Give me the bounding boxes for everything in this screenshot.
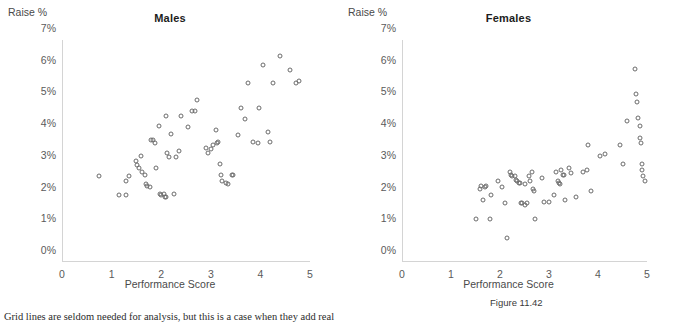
data-point [488,217,493,222]
data-point [524,201,529,206]
x-axis-title-males: Performance Score [0,278,340,290]
data-point [213,128,218,133]
x-axis-line-females [402,261,647,262]
data-point [569,171,574,176]
data-point [246,80,251,85]
data-point [636,115,641,120]
data-point [257,106,262,111]
data-point [124,193,129,198]
data-point [156,123,161,128]
data-point [473,217,478,222]
data-point [194,98,199,103]
y-tick-label-females: 7% [381,22,396,34]
data-point [586,142,591,147]
data-point [166,155,171,160]
y-tick-label-males: 1% [41,212,56,224]
chart-panel-males: Males Raise % 0%1%2%3%4%5%6%7%012345 Per… [0,0,340,296]
data-point [588,188,593,193]
data-point [278,53,283,58]
data-point [585,168,590,173]
data-point [547,199,552,204]
data-point [154,166,159,171]
data-point [618,142,623,147]
y-tick-label-females: 0% [381,244,396,256]
y-axis-line-females [402,40,403,262]
data-point [255,141,260,146]
data-point [242,117,247,122]
data-point [236,133,241,138]
plot-area-females: 0%1%2%3%4%5%6%7%012345 [402,40,647,262]
data-point [573,195,578,200]
data-point [179,114,184,119]
data-point [174,155,179,160]
chart-panel-females: Females Raise % 0%1%2%3%4%5%6%7%012345 P… [340,0,677,296]
data-point [265,129,270,134]
data-point [176,149,181,154]
data-point [192,109,197,114]
y-tick-label-females: 5% [381,85,396,97]
data-point [171,191,176,196]
y-tick-label-females: 4% [381,117,396,129]
x-axis-title-females: Performance Score [340,278,677,290]
data-point [500,185,505,190]
y-tick-label-females: 3% [381,149,396,161]
data-point [562,198,567,203]
data-point [226,182,231,187]
data-point [164,114,169,119]
y-tick-label-males: 6% [41,54,56,66]
y-axis-title-males: Raise % [8,6,47,18]
data-point [635,99,640,104]
data-point [117,193,122,198]
data-point [603,152,608,157]
data-point [238,106,243,111]
data-point [124,179,129,184]
data-point [505,236,510,241]
data-point [634,91,639,96]
data-point [551,193,556,198]
data-point [270,80,275,85]
data-point [218,172,223,177]
y-tick-label-females: 2% [381,181,396,193]
data-point [528,179,533,184]
data-point [489,193,494,198]
data-point [642,179,647,184]
data-point [260,63,265,68]
data-point [620,161,625,166]
data-point [208,147,213,152]
data-point [126,174,131,179]
data-point [297,79,302,84]
data-point [639,141,644,146]
data-point [539,175,544,180]
data-point [640,161,645,166]
y-axis-line-males [62,40,63,262]
y-tick-label-males: 5% [41,85,56,97]
y-tick-label-males: 0% [41,244,56,256]
data-point [529,169,534,174]
data-point [625,118,630,123]
y-axis-title-females: Raise % [348,6,387,18]
y-tick-label-males: 3% [41,149,56,161]
y-tick-label-females: 1% [381,212,396,224]
data-point [139,153,144,158]
data-point [231,172,236,177]
data-point [557,182,562,187]
data-point [637,123,642,128]
figure-number-label: Figure 11.42 [490,297,543,308]
data-point [495,179,500,184]
data-point [97,174,102,179]
data-point [216,139,221,144]
data-point [169,131,174,136]
data-point [480,198,485,203]
data-point [502,201,507,206]
data-point [522,182,527,187]
data-point [164,195,169,200]
data-point [640,168,645,173]
data-point [561,172,566,177]
data-point [143,172,148,177]
plot-area-males: 0%1%2%3%4%5%6%7%012345 [62,40,310,262]
data-point [532,188,537,193]
data-point [217,161,222,166]
y-tick-label-females: 6% [381,54,396,66]
data-point [632,66,637,71]
